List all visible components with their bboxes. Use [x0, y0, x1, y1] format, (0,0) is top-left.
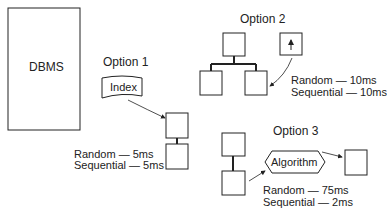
option3-result-box	[345, 150, 367, 175]
option3-box-bottom	[222, 171, 245, 195]
option1-box-top	[166, 113, 188, 138]
option2-right-box	[245, 71, 267, 95]
option2-left-box	[200, 71, 222, 95]
option1-box-bottom	[166, 144, 188, 169]
algorithm-label: Algorithm	[271, 156, 317, 169]
option2-root-box	[223, 33, 245, 56]
algorithm-to-result-arrow	[322, 152, 342, 157]
index-label: Index	[110, 81, 137, 94]
option2-tree-links	[211, 56, 256, 71]
option3-sequential: Sequential — 2ms	[263, 196, 353, 209]
option1-title: Option 1	[103, 56, 148, 69]
index-to-record-arrow	[128, 100, 165, 118]
option1-sequential: Sequential — 5ms	[74, 159, 164, 172]
option3-title: Option 3	[273, 125, 318, 138]
pointer-arrow	[270, 58, 292, 86]
record-to-algorithm-arrow	[249, 171, 265, 181]
dbms-label: DBMS	[29, 61, 64, 74]
option2-title: Option 2	[240, 13, 285, 26]
option2-sequential: Sequential — 10ms	[291, 86, 387, 99]
option3-box-top	[222, 133, 245, 156]
